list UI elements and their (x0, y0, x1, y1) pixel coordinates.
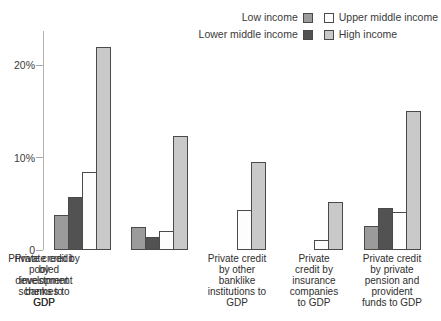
legend-label-upper-middle-income: Upper middle income (339, 12, 438, 23)
legend-label-high-income: High income (339, 29, 397, 40)
legend-swatch-low-income (303, 13, 313, 23)
legend-item-upper-middle-income: Upper middle income (324, 12, 438, 23)
category-label-insurance-companies: Private credit by insurance companies to… (270, 253, 358, 308)
bar-high-income-cat4 (328, 202, 343, 250)
bar-upper-middle-income-cat4 (314, 240, 329, 250)
legend-label-low-income: Low income (242, 12, 298, 23)
legend-swatch-high-income (324, 30, 334, 40)
legend-column-right: Upper middle income High income (324, 12, 438, 40)
bar-upper-middle-income-cat2 (159, 231, 174, 250)
y-tick-20pct (36, 65, 43, 66)
category-label-banklike-institutions: Private credit by other banklike institu… (193, 253, 281, 308)
bar-low-income-cat2 (131, 227, 146, 250)
bar-low-income-cat5 (364, 226, 379, 250)
y-tick-label-20pct: 20% (4, 59, 35, 71)
bar-high-income-cat3 (251, 162, 266, 250)
bar-upper-middle-income-cat3 (237, 210, 252, 250)
bar-high-income-cat2 (173, 136, 188, 250)
y-tick-label-10pct: 10% (4, 152, 35, 164)
legend-label-lower-middle-income: Lower middle income (199, 29, 298, 40)
bar-lower-middle-income-cat5 (378, 208, 393, 250)
legend-column-left: Low income Lower middle income (199, 12, 313, 40)
legend-item-high-income: High income (324, 29, 438, 40)
y-tick-label-0: 0 (4, 244, 35, 256)
bar-high-income-cat1 (96, 47, 111, 251)
legend-swatch-upper-middle-income (324, 13, 334, 23)
bar-high-income-cat5 (406, 111, 421, 250)
legend-swatch-lower-middle-income (303, 30, 313, 40)
y-tick-0 (36, 250, 43, 251)
bar-low-income-cat1 (54, 215, 69, 250)
bar-upper-middle-income-cat5 (392, 212, 407, 250)
bar-lower-middle-income-cat2 (145, 237, 160, 250)
chart-legend: Low income Lower middle income Upper mid… (199, 12, 438, 40)
legend-item-low-income: Low income (199, 12, 313, 23)
legend-item-lower-middle-income: Lower middle income (199, 29, 313, 40)
bar-lower-middle-income-cat1 (68, 197, 83, 250)
category-label-pension-provident-funds: Private credit by private pension and pr… (348, 253, 436, 308)
grouped-bar-chart: Low income Lower middle income Upper mid… (0, 0, 441, 321)
y-tick-10pct (36, 157, 43, 158)
y-axis-line (43, 31, 44, 250)
category-label-development-banks: Private credit by development banks to G… (0, 253, 88, 308)
bar-upper-middle-income-cat1 (82, 172, 97, 250)
